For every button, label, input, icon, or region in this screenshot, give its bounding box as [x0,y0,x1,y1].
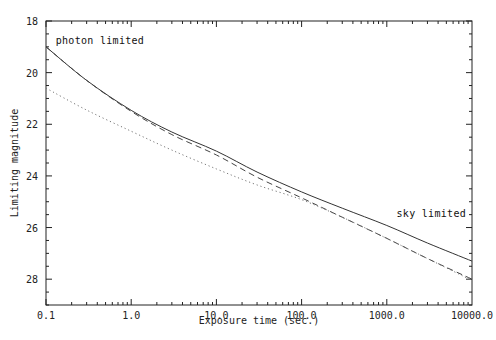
ticks [46,21,472,305]
y-tick-label: 20 [26,68,38,79]
y-tick-label: 22 [26,119,38,130]
tick-labels: 0.11.010.0100.01000.010000.0182022242628 [26,16,493,321]
plot-frame [46,21,472,305]
y-tick-label: 18 [26,16,38,27]
y-tick-label: 26 [26,223,38,234]
series-line-dotted [46,88,472,280]
y-tick-label: 28 [26,274,38,285]
y-axis-label: Limiting magnitude [9,109,20,217]
x-tick-label: 1.0 [122,310,140,321]
x-tick-label: 0.1 [37,310,55,321]
x-tick-label: 1000.0 [369,310,405,321]
annotation-sky-limited: sky limited [397,208,467,219]
y-tick-label: 24 [26,171,38,182]
series-line-solid [46,47,472,261]
chart: 0.11.010.0100.01000.010000.0182022242628… [0,0,496,340]
annotation-photon-limited: photon limited [56,35,145,46]
series-line-dashed [46,47,472,279]
series-group [46,47,472,281]
x-tick-label: 10000.0 [451,310,493,321]
x-axis-label: Exposure time (sec.) [199,315,319,326]
